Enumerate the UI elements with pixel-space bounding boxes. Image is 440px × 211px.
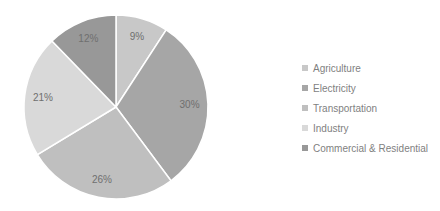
data-label: 21% xyxy=(33,92,53,103)
legend-item-industry: Industry xyxy=(302,118,428,138)
legend-swatch-icon xyxy=(302,145,308,151)
legend-swatch-icon xyxy=(302,65,308,71)
legend-label: Agriculture xyxy=(313,63,361,74)
legend-item-transportation: Transportation xyxy=(302,98,428,118)
legend-label: Commercial & Residential xyxy=(313,143,428,154)
legend-swatch-icon xyxy=(302,85,308,91)
legend-label: Electricity xyxy=(313,83,356,94)
data-label: 9% xyxy=(130,31,145,42)
legend-item-electricity: Electricity xyxy=(302,78,428,98)
data-label: 12% xyxy=(78,33,98,44)
data-label: 26% xyxy=(92,174,112,185)
legend-swatch-icon xyxy=(302,125,308,131)
legend-swatch-icon xyxy=(302,105,308,111)
legend-item-commercial-residential: Commercial & Residential xyxy=(302,138,428,158)
legend-label: Transportation xyxy=(313,103,377,114)
pie-chart: 9%30%26%21%12% xyxy=(0,0,290,211)
legend-label: Industry xyxy=(313,123,349,134)
data-label: 30% xyxy=(180,99,200,110)
legend-item-agriculture: Agriculture xyxy=(302,58,428,78)
chart-legend: Agriculture Electricity Transportation I… xyxy=(302,58,428,158)
